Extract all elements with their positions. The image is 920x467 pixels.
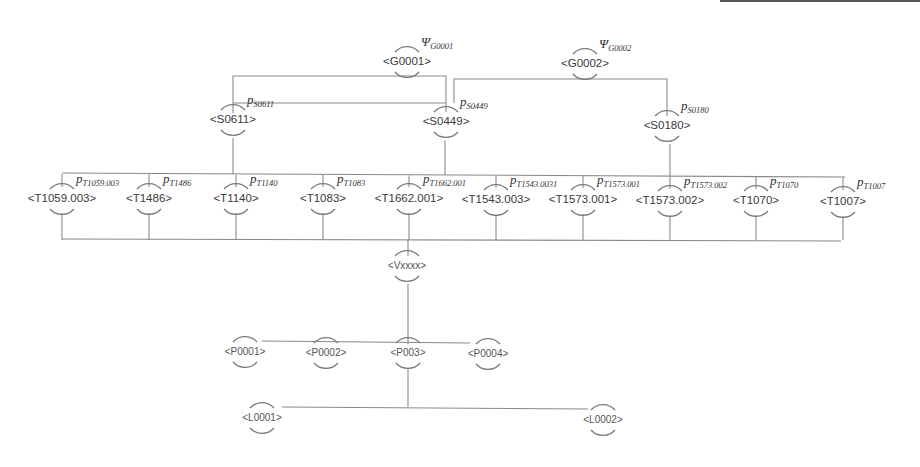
node-bottom-arc	[396, 363, 420, 368]
node-bottom-arc	[250, 428, 274, 433]
technique-node-t1543.003: <T1543.003>pT1543.0031	[462, 172, 558, 215]
node-symbol: pT1070	[769, 173, 799, 190]
strategy-node-s0180: <S0180>pS0180	[644, 98, 710, 141]
technique-node-t1573.002: <T1573.002>pT1573.002	[636, 173, 728, 216]
node-symbol: pT1543.0031	[509, 172, 557, 189]
node-label: <T1573.002>	[636, 194, 705, 206]
node-label: <T1007>	[820, 195, 866, 207]
node-label: <T1083>	[300, 192, 346, 204]
node-top-arc	[591, 405, 615, 410]
node-label: <Vxxxx>	[388, 260, 427, 271]
node-bottom-arc	[233, 362, 257, 367]
node-top-arc	[233, 337, 257, 342]
node-symbol: pT1662.001	[422, 171, 466, 188]
node-symbol: pT1007	[856, 174, 886, 191]
attack-hierarchy-diagram: <G0001>ΨG0001<G0002>ΨG0002<S0611>pS0611<…	[0, 0, 920, 467]
node-bottom-arc	[314, 363, 338, 368]
node-label: <T1543.003>	[462, 193, 531, 205]
node-label: <P0004>	[468, 348, 509, 359]
node-symbol: pT1573.002	[683, 173, 728, 190]
nodes-layer: <G0001>ΨG0001<G0002>ΨG0002<S0611>pS0611<…	[28, 34, 886, 435]
goal-node-g0002: <G0002>ΨG0002	[561, 36, 632, 79]
node-label: <T1140>	[213, 192, 258, 204]
node-label: <P0001>	[225, 346, 266, 357]
node-label: <L0001>	[242, 412, 282, 423]
node-label: <G0002>	[561, 57, 609, 69]
node-label: <T1573.001>	[549, 193, 618, 205]
technique-node-t1662.001: <T1662.001>pT1662.001	[375, 171, 466, 214]
product-node-p0001: <P0001>	[225, 337, 266, 368]
node-symbol: ΨG0001	[421, 34, 453, 51]
vulnerability-node-vxxxx: <Vxxxx>	[388, 251, 427, 282]
node-label: <G0001>	[383, 55, 431, 67]
node-symbol: pS0449	[459, 94, 489, 111]
node-bottom-arc	[221, 130, 245, 135]
technique-node-t1573.001: <T1573.001>pT1573.001	[549, 172, 640, 215]
node-symbol: pT1083	[336, 171, 365, 188]
node-bottom-arc	[434, 132, 458, 137]
location-node-l0002: <L0002>	[583, 405, 623, 436]
node-bottom-arc	[591, 430, 615, 435]
node-label: <S0611>	[210, 113, 256, 125]
node-label: <T1662.001>	[375, 192, 444, 204]
strategy-node-s0449: <S0449>pS0449	[423, 94, 489, 137]
technique-node-t1486: <T1486>pT1486	[126, 171, 192, 214]
node-label: <S0180>	[644, 119, 691, 131]
node-symbol: pS0611	[246, 92, 274, 109]
technique-node-t1083: <T1083>pT1083	[300, 171, 365, 214]
node-top-arc	[250, 403, 274, 408]
technique-node-t1070: <T1070>pT1070	[733, 173, 799, 216]
node-label: <T1486>	[126, 192, 172, 204]
node-label: <T1059.003>	[28, 192, 97, 204]
node-bottom-arc	[476, 364, 500, 369]
strategy-node-s0611: <S0611>pS0611	[210, 92, 274, 135]
node-bottom-arc	[655, 136, 679, 141]
node-label: <L0002>	[583, 414, 623, 425]
technique-node-t1140: <T1140>pT1140	[213, 171, 278, 214]
node-symbol: pT1573.001	[596, 172, 640, 189]
node-top-arc	[476, 339, 500, 344]
node-label: <P003>	[390, 347, 425, 358]
node-bottom-arc	[395, 72, 419, 77]
technique-node-t1059.003: <T1059.003>pT1059.003	[28, 171, 119, 214]
goal-node-g0001: <G0001>ΨG0001	[383, 34, 453, 77]
node-top-arc	[573, 49, 597, 54]
node-top-arc	[395, 47, 419, 52]
node-symbol: ΨG0002	[599, 36, 632, 53]
node-bottom-arc	[395, 276, 419, 281]
node-symbol: pS0180	[680, 98, 710, 115]
node-label: <T1070>	[733, 194, 779, 206]
product-node-p0004: <P0004>	[468, 339, 509, 370]
node-top-arc	[395, 251, 419, 256]
location-node-l0001: <L0001>	[242, 403, 282, 434]
node-label: <S0449>	[423, 115, 470, 127]
node-label: <P0002>	[306, 347, 347, 358]
technique-node-t1007: <T1007>pT1007	[820, 174, 886, 217]
connector-edges	[62, 76, 845, 241]
